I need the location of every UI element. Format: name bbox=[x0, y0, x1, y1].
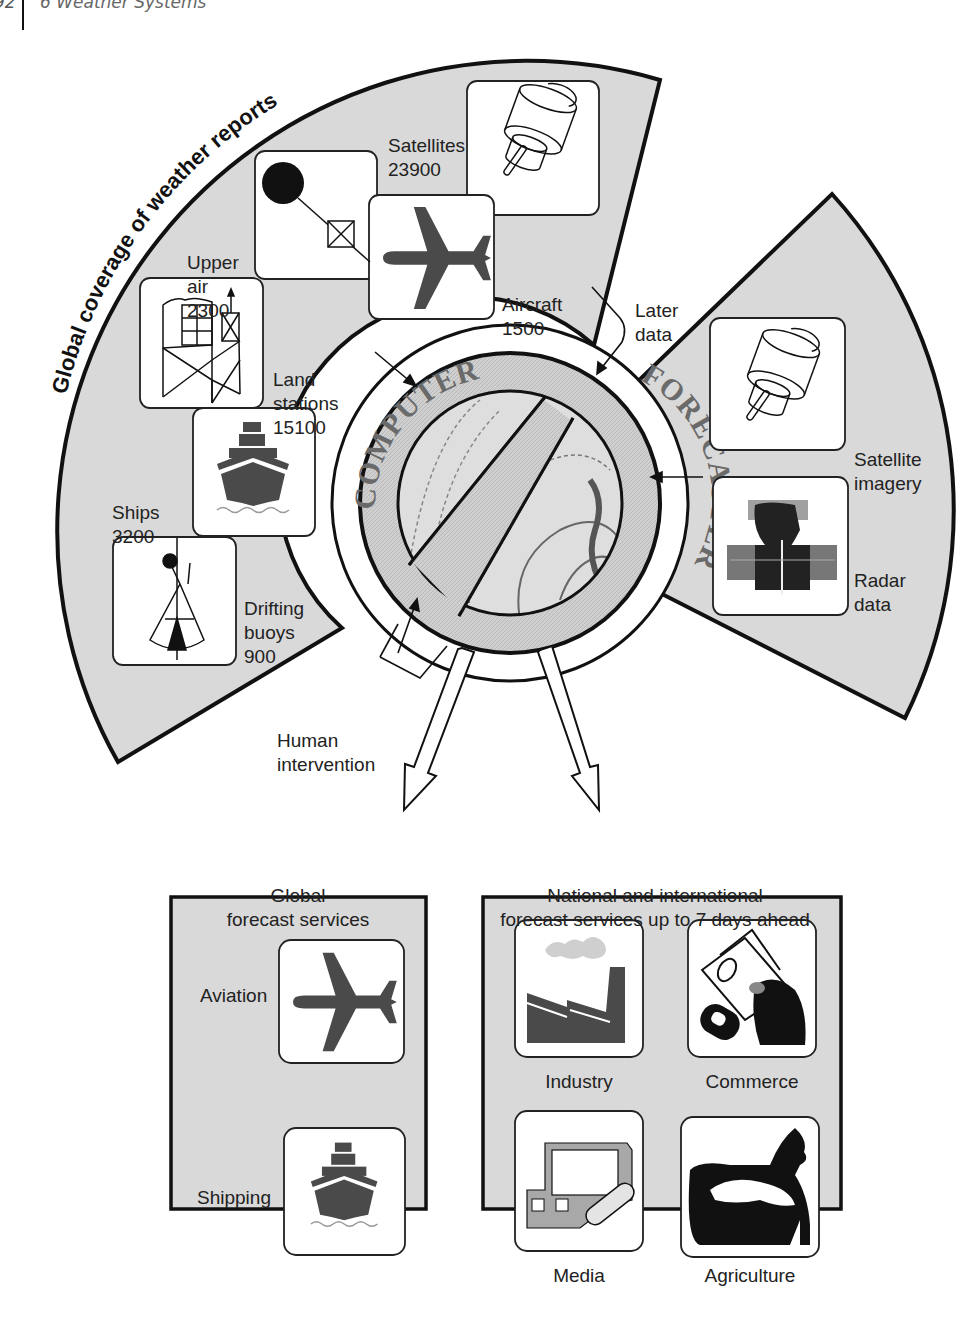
commerce-label: Commerce bbox=[688, 1070, 816, 1094]
aviation-label: Aviation bbox=[200, 984, 267, 1008]
agriculture-label: Agriculture bbox=[681, 1264, 819, 1288]
land-stations-label: Landstations15100 bbox=[273, 320, 338, 464]
satellite-imagery-label: Satelliteimagery bbox=[854, 400, 922, 520]
drifting-buoys-label: Driftingbuoys900 bbox=[244, 549, 304, 693]
later-data-label: Laterdata bbox=[635, 251, 678, 371]
human-intervention-label: Humanintervention bbox=[277, 681, 375, 801]
shipping-label: Shipping bbox=[197, 1186, 271, 1210]
ships-label: Ships3200 bbox=[112, 453, 160, 573]
satellites-label: Satellites23900 bbox=[388, 86, 465, 206]
global-services-title: Globalforecast services bbox=[178, 836, 418, 956]
weather-forecast-diagram: COMPUTER FORECASTER Global coverage of w… bbox=[0, 0, 978, 1320]
industry-label: Industry bbox=[515, 1070, 643, 1094]
upper-air-label: Upperair2300 bbox=[187, 203, 239, 347]
national-services-title: National and internationalforecast servi… bbox=[470, 836, 840, 956]
media-label: Media bbox=[515, 1264, 643, 1288]
radar-data-label: Radardata bbox=[854, 521, 906, 641]
aircraft-label: Aircraft1500 bbox=[502, 245, 562, 365]
